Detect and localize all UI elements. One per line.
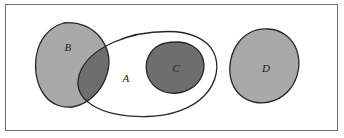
set-label-b: B	[65, 41, 72, 53]
set-label-a: A	[122, 72, 130, 84]
set-label-c: C	[172, 62, 180, 74]
euler-diagram-canvas: B A C D	[0, 0, 344, 138]
set-label-d: D	[261, 62, 270, 74]
euler-diagram-figure: B A C D	[0, 0, 344, 138]
